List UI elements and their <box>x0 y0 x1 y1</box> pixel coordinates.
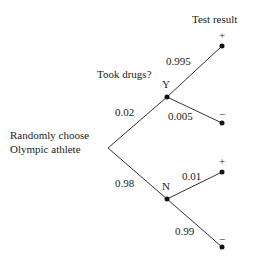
sign-yes-negative: − <box>217 108 227 121</box>
probability-tree-diagram: Test result Took drugs? Randomly choose … <box>0 0 255 263</box>
prob-no: 0.98 <box>115 177 134 190</box>
sign-no-negative: − <box>217 233 227 246</box>
edge-root-to-yes <box>108 97 167 148</box>
sign-yes-positive: + <box>217 29 227 42</box>
prob-no-negative: 0.99 <box>175 225 194 238</box>
prob-yes-negative: 0.005 <box>168 110 193 123</box>
node-no-label: N <box>162 180 170 193</box>
node-yes-label: Y <box>162 78 170 91</box>
prob-yes-positive: 0.995 <box>166 55 191 68</box>
edge-no-to-negative <box>167 199 222 247</box>
leaf-yes-positive <box>220 44 225 49</box>
stage1-header: Took drugs? <box>97 68 152 81</box>
edge-root-to-no <box>108 148 167 199</box>
stage2-header: Test result <box>192 13 237 26</box>
root-label-line2: Olympic athlete <box>10 143 81 156</box>
sign-no-positive: + <box>217 155 227 168</box>
root-label-line1: Randomly choose <box>10 129 89 142</box>
leaf-no-positive <box>220 170 225 175</box>
prob-no-positive: 0.01 <box>182 170 201 183</box>
node-no <box>165 197 170 202</box>
prob-yes: 0.02 <box>115 106 134 119</box>
edge-yes-to-positive <box>167 46 222 97</box>
node-yes <box>165 95 170 100</box>
leaf-yes-negative <box>220 121 225 126</box>
